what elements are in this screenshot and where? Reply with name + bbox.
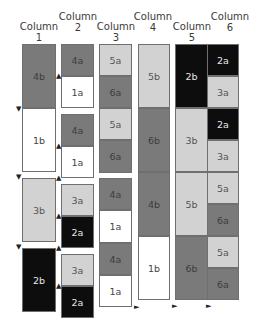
up-arrow-icon: ▲ bbox=[56, 143, 61, 150]
header-number: 1 bbox=[14, 32, 64, 43]
col4-block-5b: 5b bbox=[138, 44, 170, 108]
col2-block-2a: 2a bbox=[61, 216, 94, 248]
right-arrow-icon: ► bbox=[134, 304, 139, 311]
up-arrow-icon: ▲ bbox=[56, 175, 61, 182]
col5-block-2b: 2b bbox=[175, 44, 208, 108]
col5-block-6b: 6b bbox=[175, 236, 208, 300]
up-arrow-icon: ▲ bbox=[56, 73, 61, 80]
col6-block-3a: 3a bbox=[207, 76, 239, 108]
col6-block-6a: 6a bbox=[207, 204, 239, 236]
col3-block-4a: 4a bbox=[99, 243, 132, 275]
header-number: 5 bbox=[167, 32, 217, 43]
col6-block-3a: 3a bbox=[207, 140, 239, 172]
col4-block-6b: 6b bbox=[138, 108, 170, 172]
col3-block-4a: 4a bbox=[99, 178, 132, 210]
col6-block-2a: 2a bbox=[207, 108, 239, 140]
up-arrow-icon: ▲ bbox=[56, 283, 61, 290]
col2-block-2a: 2a bbox=[61, 286, 94, 318]
up-arrow-icon: ▲ bbox=[56, 213, 61, 220]
header-number: 3 bbox=[91, 32, 141, 43]
col1-block-1b: 1b bbox=[22, 108, 56, 172]
col2-block-1a: 1a bbox=[61, 76, 94, 108]
col3-block-1a: 1a bbox=[99, 210, 132, 243]
right-arrow-icon: ► bbox=[206, 303, 211, 310]
col3-block-6a: 6a bbox=[99, 76, 132, 108]
col3-block-5a: 5a bbox=[99, 108, 132, 140]
col6-block-6a: 6a bbox=[207, 268, 239, 300]
col6-block-5a: 5a bbox=[207, 236, 239, 268]
col2-block-3a: 3a bbox=[61, 184, 94, 216]
down-arrow-icon: ▼ bbox=[16, 106, 21, 113]
right-arrow-icon: ► bbox=[172, 303, 177, 310]
col3-block-6a: 6a bbox=[99, 140, 132, 173]
col1-block-2b: 2b bbox=[22, 248, 56, 312]
col3-block-5a: 5a bbox=[99, 44, 132, 76]
header-label: Column bbox=[205, 11, 253, 22]
col1-block-3b: 3b bbox=[22, 178, 56, 242]
col2-block-4a: 4a bbox=[61, 114, 94, 146]
col2-block-1a: 1a bbox=[61, 146, 94, 178]
col2-block-3a: 3a bbox=[61, 254, 94, 286]
col4-block-1b: 1b bbox=[138, 236, 170, 300]
col3-block-1a: 1a bbox=[99, 275, 132, 307]
down-arrow-icon: ▼ bbox=[16, 244, 21, 251]
col6-block-2a: 2a bbox=[207, 44, 239, 76]
down-arrow-icon: ▼ bbox=[16, 174, 21, 181]
column-6-header: Column 6 bbox=[205, 11, 253, 33]
up-arrow-icon: ▲ bbox=[56, 245, 61, 252]
col6-block-5a: 5a bbox=[207, 172, 239, 204]
col5-block-5b: 5b bbox=[175, 172, 208, 236]
header-number: 6 bbox=[205, 22, 253, 33]
col5-block-3b: 3b bbox=[175, 108, 208, 172]
col1-block-4b: 4b bbox=[22, 44, 56, 108]
col2-block-4a: 4a bbox=[61, 44, 94, 76]
col4-block-4b: 4b bbox=[138, 172, 170, 236]
